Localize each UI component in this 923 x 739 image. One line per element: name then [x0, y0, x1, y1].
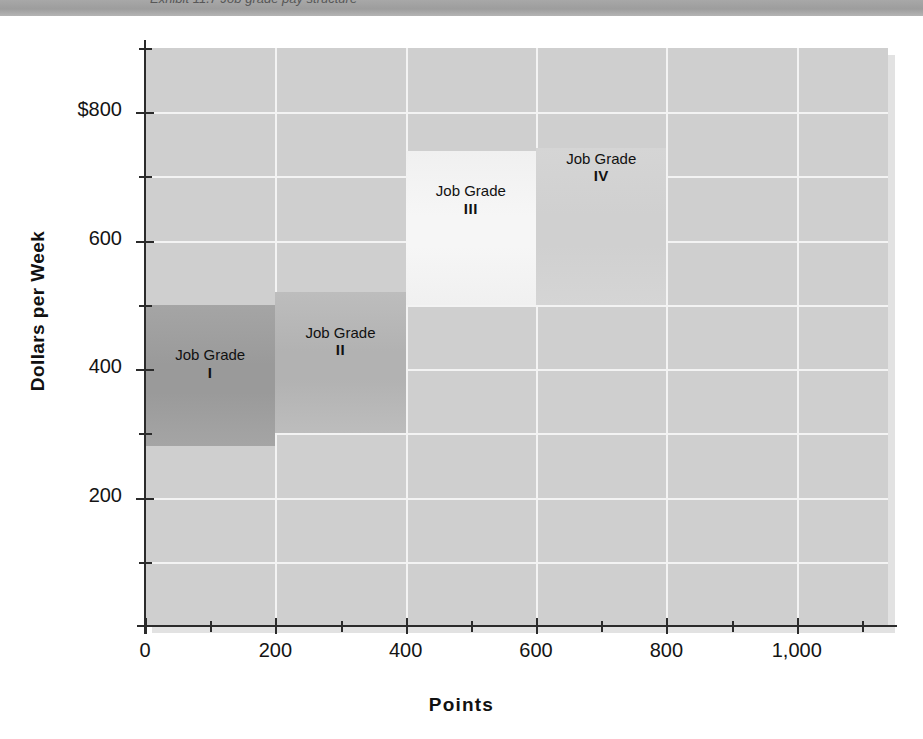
y-tick-minor: [139, 48, 152, 50]
y-tick-major: [136, 498, 154, 500]
gridline-horizontal: [145, 112, 888, 114]
x-tick-major: [797, 618, 799, 634]
job-grade-label: Job GradeIV: [536, 150, 666, 185]
y-tick-minor: [139, 562, 152, 564]
job-grade-block-ii: Job GradeII: [275, 292, 405, 433]
x-tick-minor: [601, 621, 603, 632]
y-tick-major: [136, 112, 154, 114]
x-tick-major: [666, 618, 668, 634]
y-tick-major: [136, 369, 154, 371]
x-tick-minor: [471, 621, 473, 632]
x-tick-minor: [862, 621, 864, 632]
job-grade-label-numeral: II: [275, 341, 405, 359]
job-grade-label-numeral: I: [145, 364, 275, 382]
x-tick-label: 800: [621, 639, 711, 662]
gridline-vertical: [406, 48, 408, 626]
x-axis-line: [137, 625, 897, 627]
gridline-horizontal: [145, 562, 888, 564]
job-grade-label: Job GradeI: [145, 346, 275, 381]
x-axis-title: Points: [0, 694, 923, 716]
gridline-vertical: [666, 48, 668, 626]
job-grade-label: Job GradeII: [275, 324, 405, 359]
y-tick-minor: [139, 176, 152, 178]
x-tick-major: [536, 618, 538, 634]
x-tick-label: 600: [491, 639, 581, 662]
y-axis-title: Dollars per Week: [27, 181, 49, 441]
y-axis-title-wrapper: Dollars per Week: [0, 0, 135, 739]
x-tick-major: [145, 618, 147, 634]
job-grade-label-text: Job Grade: [275, 324, 405, 342]
x-tick-minor: [210, 621, 212, 632]
x-tick-minor: [732, 621, 734, 632]
x-tick-label: 200: [230, 639, 320, 662]
y-tick-minor: [139, 305, 152, 307]
job-grade-label-text: Job Grade: [536, 150, 666, 168]
gridline-vertical: [536, 48, 538, 626]
y-axis-line: [144, 40, 146, 634]
job-grade-block-i: Job GradeI: [145, 305, 275, 446]
x-tick-major: [406, 618, 408, 634]
gridline-horizontal: [145, 498, 888, 500]
job-grade-block-iv: Job GradeIV: [536, 148, 666, 305]
gridline-vertical: [797, 48, 799, 626]
plot-area: Job GradeIJob GradeIIJob GradeIIIJob Gra…: [145, 48, 888, 626]
x-tick-label: 400: [361, 639, 451, 662]
job-grade-block-iii: Job GradeIII: [406, 151, 536, 305]
y-tick-minor: [139, 433, 152, 435]
y-tick-major: [136, 241, 154, 243]
job-grade-label-numeral: III: [406, 200, 536, 218]
x-tick-label: 1,000: [752, 639, 842, 662]
job-grade-label-text: Job Grade: [145, 346, 275, 364]
x-tick-minor: [341, 621, 343, 632]
chart-figure: Job GradeIJob GradeIIJob GradeIIIJob Gra…: [0, 0, 923, 739]
job-grade-label: Job GradeIII: [406, 182, 536, 217]
x-tick-major: [275, 618, 277, 634]
job-grade-label-text: Job Grade: [406, 182, 536, 200]
job-grade-label-numeral: IV: [536, 167, 666, 185]
